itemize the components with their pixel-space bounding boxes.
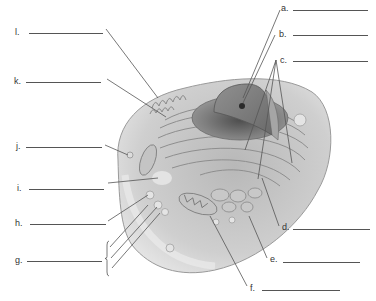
label-b: b. [279,30,287,39]
label-i: i. [17,184,22,193]
answer-blank-k[interactable] [26,82,101,83]
answer-blank-e[interactable] [283,262,360,263]
label-d: d. [282,223,290,232]
answer-blank-i[interactable] [29,189,104,190]
label-j: j. [16,142,21,151]
label-e: e. [270,255,278,264]
label-a: a. [281,4,289,13]
bracket-g [105,241,109,276]
label-l: l. [15,28,20,37]
answer-blank-b[interactable] [293,35,368,36]
label-f: f. [250,284,255,293]
answer-blank-h[interactable] [30,224,106,225]
answer-blank-f[interactable] [262,290,340,291]
label-h: h. [15,219,23,228]
cell-illustration [0,0,376,301]
label-c: c. [280,56,287,65]
nucleolus [239,103,245,109]
answer-blank-d[interactable] [293,229,370,230]
leader-line-l [106,29,158,98]
answer-blank-c[interactable] [293,61,368,62]
answer-blank-j[interactable] [26,147,102,148]
label-k: k. [14,77,21,86]
label-g: g. [15,256,23,265]
answer-blank-a[interactable] [293,10,368,11]
answer-blank-g[interactable] [27,261,102,262]
cell-diagram: a.b.c.d.e.f.l.k.j.i.h.g. [0,0,376,301]
answer-blank-l[interactable] [29,33,103,34]
